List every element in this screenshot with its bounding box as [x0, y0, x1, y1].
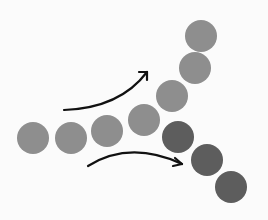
- circle-upper-3: [185, 20, 217, 52]
- circles-group: [17, 20, 247, 203]
- circle-upper-2: [179, 52, 211, 84]
- arrow-up-icon: [64, 72, 147, 110]
- circle-stem-2: [55, 122, 87, 154]
- circle-stem-3: [91, 115, 123, 147]
- circle-upper-1: [156, 80, 188, 112]
- circle-lower-3: [215, 171, 247, 203]
- circle-lower-2: [191, 144, 223, 176]
- divergence-diagram: [0, 0, 268, 220]
- circle-stem-4: [128, 104, 160, 136]
- circle-lower-1: [162, 121, 194, 153]
- circle-stem-1: [17, 122, 49, 154]
- arrow-down-icon: [88, 152, 182, 166]
